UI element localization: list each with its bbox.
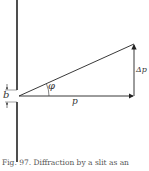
diffracted-ray bbox=[19, 44, 134, 96]
angle-phi-label: φ bbox=[48, 81, 55, 91]
delta-p-label: Δp bbox=[136, 66, 147, 74]
figure-caption: Fig. 97. Diffraction by a slit as an bbox=[2, 158, 129, 167]
momentum-p-label: p bbox=[72, 97, 78, 106]
slit-width-label: b bbox=[3, 90, 9, 100]
diffraction-diagram bbox=[0, 0, 149, 171]
